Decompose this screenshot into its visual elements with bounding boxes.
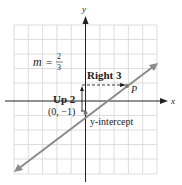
rise-run-arrows	[81, 85, 124, 111]
slope-m: m	[33, 55, 42, 69]
y-axis-arrow-icon	[83, 16, 89, 24]
slope-den: 3	[57, 63, 61, 72]
up-arrow-icon	[80, 86, 84, 91]
point-p	[125, 84, 129, 88]
slope-num: 2	[57, 52, 61, 61]
p-label: P	[130, 84, 137, 95]
axes	[5, 20, 164, 182]
slope-eq: =	[46, 56, 52, 68]
y-axis-label: y	[81, 4, 86, 14]
up-2-label: Up 2	[53, 93, 76, 105]
y-intercept-label: y-intercept	[90, 116, 134, 127]
right-3-label: Right 3	[87, 69, 122, 81]
point-coordinates: (0, −1)	[48, 106, 75, 118]
coordinate-graph: m = 2 3 Right 3 Up 2 (0, −1) y-intercept…	[0, 0, 182, 185]
x-axis-label: x	[170, 96, 175, 106]
y-intercept-point	[84, 111, 88, 115]
x-axis-arrow-icon	[160, 98, 168, 104]
